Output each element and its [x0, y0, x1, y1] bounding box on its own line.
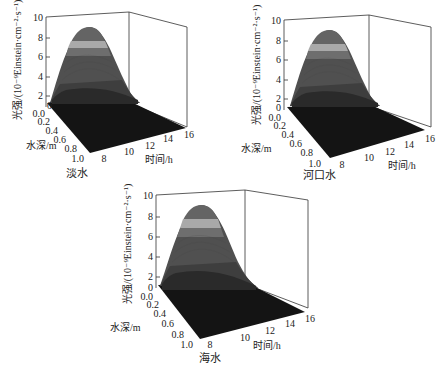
intensity-axis-label: 光强/(10⁻⁹Einstein·cm⁻²·s⁻¹): [11, 0, 24, 120]
intensity-axis-label: 光强/(10⁻⁹Einstein·cm⁻²·s⁻¹): [250, 5, 263, 125]
depth-axis-label: 水深/m: [241, 143, 272, 154]
z-tick: 2: [148, 271, 153, 282]
surface-plot-freshwater: 10 8 6 4 2 0 0.0 0.2 0.4 0.6 0.8 1.0 8 1…: [0, 0, 220, 180]
time-tick: 8: [208, 339, 213, 350]
z-axis-ticks: [156, 217, 160, 277]
z-tick: 4: [276, 74, 281, 85]
z-tick: 10: [271, 15, 281, 26]
time-axis-label: 时间/h: [145, 153, 173, 165]
time-tick: 14: [404, 139, 414, 150]
time-tick: 10: [240, 332, 250, 343]
z-tick: 4: [148, 251, 153, 262]
time-tick: 12: [145, 140, 155, 151]
z-tick: 0: [47, 100, 52, 111]
time-tick: 12: [265, 325, 275, 336]
depth-axis-label: 水深/m: [26, 140, 57, 151]
depth-tick: 1.0: [309, 158, 322, 169]
time-tick: 14: [285, 318, 295, 329]
depth-axis-label: 水深/m: [110, 322, 141, 333]
time-axis-label: 时间/h: [253, 339, 281, 351]
z-tick: 8: [38, 32, 43, 43]
surface-peak: [160, 205, 258, 290]
surface-plot-estuary: 10 8 6 4 2 0 0.0 0.2 0.4 0.6 0.8 1.0 8 1…: [238, 3, 441, 183]
z-tick: 6: [38, 51, 43, 62]
time-tick: 14: [163, 133, 173, 144]
surface-peak: [50, 27, 140, 104]
z-tick: 2: [38, 90, 43, 101]
time-tick: 12: [385, 146, 395, 157]
z-tick: 8: [276, 35, 281, 46]
time-tick: 16: [184, 129, 194, 140]
time-axis-label: 时间/h: [388, 159, 416, 171]
z-tick: 10: [143, 190, 153, 201]
plot-svg: 10 8 6 4 2 0 0.0 0.2 0.4 0.6 0.8 1.0 8 1…: [238, 3, 441, 183]
depth-tick: 1.0: [72, 153, 85, 164]
depth-tick: 0.8: [301, 147, 314, 158]
time-tick: 8: [102, 153, 107, 164]
time-tick: 16: [305, 313, 315, 324]
z-axis-ticks: [284, 41, 288, 99]
z-tick: 6: [148, 231, 153, 242]
z-tick: 6: [276, 54, 281, 65]
time-tick: 16: [425, 133, 435, 144]
z-tick: 4: [38, 71, 43, 82]
depth-tick: 0.6: [162, 318, 175, 329]
z-tick: 8: [148, 211, 153, 222]
z-tick: 10: [33, 12, 43, 23]
surface-plot-seawater: 10 8 6 4 2 0 0.0 0.2 0.4 0.6 0.8 1.0 8 1…: [110, 180, 330, 367]
surface-peak: [290, 30, 380, 107]
time-tick: 10: [364, 152, 374, 163]
panel-caption: 海水: [199, 351, 221, 365]
plot-svg: 10 8 6 4 2 0 0.0 0.2 0.4 0.6 0.8 1.0 8 1…: [110, 180, 330, 367]
time-tick: 8: [340, 159, 345, 170]
time-tick: 10: [124, 146, 134, 157]
panel-caption: 淡水: [66, 167, 88, 180]
z-axis-ticks: [46, 38, 50, 96]
depth-tick: 1.0: [181, 339, 194, 350]
plot-svg: 10 8 6 4 2 0 0.0 0.2 0.4 0.6 0.8 1.0 8 1…: [0, 0, 220, 180]
intensity-axis-label: 光强/(10⁻⁹Einstein·cm⁻²·s⁻¹): [121, 184, 134, 304]
